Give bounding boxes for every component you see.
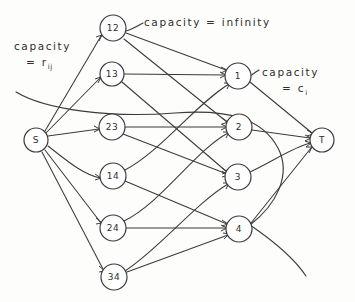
node-24-label: 24 [107, 223, 120, 233]
node-s[interactable]: S [24, 128, 48, 152]
flow-network-figure: S 12 13 23 14 24 [0, 0, 355, 302]
node-1[interactable]: 1 [225, 63, 251, 89]
edge-34-4 [127, 235, 228, 272]
edge-s-14 [48, 146, 100, 178]
annotation-rij-equals: = [26, 56, 37, 68]
edge-4-T [251, 148, 311, 223]
annotation-capacity-rij: capacity = rij [14, 38, 71, 73]
node-34[interactable]: 34 [101, 264, 127, 290]
annotation-ci-value-line: = ci [262, 80, 319, 99]
annotation-ci-word-capacity: capacity [262, 66, 319, 78]
node-s-label: S [33, 135, 39, 145]
annotation-infinity-equals: = [206, 16, 217, 28]
node-2[interactable]: 2 [226, 114, 252, 140]
node-34-label: 34 [108, 272, 121, 282]
edge-3-T [250, 143, 310, 172]
edge-s-23 [48, 129, 99, 136]
leader-line-infinity [126, 23, 143, 31]
annotation-capacity-infinity: capacity = infinity [144, 14, 271, 30]
node-23[interactable]: 23 [99, 114, 125, 140]
node-3-label: 3 [235, 172, 241, 182]
edge-23-3 [123, 134, 227, 174]
node-13-label: 13 [106, 69, 119, 79]
leader-line-rij-tail [250, 225, 306, 276]
annotation-rij-subscript: ij [48, 63, 53, 71]
node-1-label: 1 [235, 71, 241, 81]
edge-s-34 [42, 152, 104, 271]
edge-13-1 [124, 74, 225, 75]
node-14[interactable]: 14 [100, 163, 126, 189]
annotation-ci-equals: = [282, 82, 293, 94]
node-4-label: 4 [236, 224, 242, 234]
edge-24-2 [124, 133, 228, 221]
node-12-label: 12 [107, 23, 120, 33]
annotation-rij-value-line: = rij [14, 54, 71, 73]
edge-group-indices-to-sink [250, 82, 313, 223]
node-12[interactable]: 12 [100, 15, 126, 41]
edge-14-4 [125, 181, 227, 224]
node-13[interactable]: 13 [100, 62, 124, 86]
node-3[interactable]: 3 [225, 164, 251, 190]
node-14-label: 14 [107, 171, 120, 181]
node-t-label: T [318, 135, 325, 145]
node-24[interactable]: 24 [100, 215, 126, 241]
annotation-rij-word-capacity: capacity [14, 40, 71, 52]
edge-2-T [252, 130, 310, 138]
arrowhead-s-12 [96, 35, 102, 41]
edge-12-1 [126, 33, 226, 70]
edge-s-13 [46, 78, 100, 133]
node-2-label: 2 [236, 122, 242, 132]
annotation-infinity-value: infinity [222, 16, 271, 28]
node-23-label: 23 [106, 122, 119, 132]
node-4[interactable]: 4 [226, 216, 252, 242]
edge-group-pairs-to-indices [122, 33, 230, 272]
node-t[interactable]: T [310, 128, 334, 152]
annotation-capacity-ci: capacity = ci [262, 64, 319, 99]
annotation-infinity-word-capacity: capacity [144, 16, 201, 28]
annotation-ci-subscript: i [305, 89, 307, 97]
